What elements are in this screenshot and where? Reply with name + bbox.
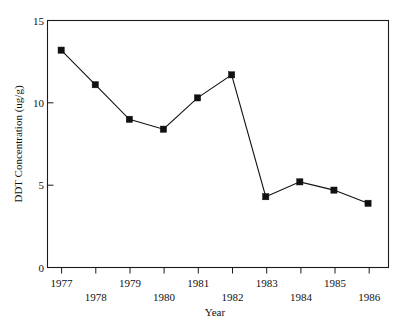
x-tick-label-1977: 1977 (51, 277, 74, 289)
data-series-group (58, 47, 371, 206)
y-tick-label-0: 0 (39, 262, 45, 274)
x-axis-tick-labels-bottom: 1978 1980 1982 1984 1986 (85, 291, 381, 303)
y-tick-label-15: 15 (33, 15, 45, 27)
y-axis-tick-labels: 15 10 5 0 (33, 15, 45, 274)
data-point-1979 (126, 116, 132, 122)
plot-frame (48, 21, 389, 268)
data-point-1983 (263, 194, 269, 200)
data-point-1981 (194, 95, 200, 101)
ddt-concentration-line-chart: 15 10 5 0 1977 1979 1981 1983 1985 (0, 0, 405, 326)
x-tick-label-1984: 1984 (290, 291, 313, 303)
x-axis-tick-labels-top: 1977 1979 1981 1983 1985 (51, 277, 347, 289)
x-axis-ticks (62, 268, 370, 274)
series-markers (58, 47, 371, 206)
data-point-1977 (58, 47, 64, 53)
x-tick-label-1981: 1981 (187, 277, 209, 289)
data-point-1986 (365, 200, 371, 206)
chart-canvas: 15 10 5 0 1977 1979 1981 1983 1985 (0, 0, 405, 326)
y-axis-ticks (48, 21, 54, 268)
x-tick-label-1980: 1980 (153, 291, 176, 303)
x-tick-label-1986: 1986 (358, 291, 381, 303)
y-tick-label-5: 5 (39, 179, 45, 191)
y-tick-label-10: 10 (33, 97, 45, 109)
x-tick-label-1985: 1985 (324, 277, 347, 289)
data-point-1978 (92, 82, 98, 88)
data-point-1980 (160, 126, 166, 132)
x-tick-label-1983: 1983 (256, 277, 279, 289)
y-axis-title: DDT Concentration (ug/g) (12, 85, 25, 202)
data-point-1985 (331, 187, 337, 193)
x-tick-label-1979: 1979 (119, 277, 142, 289)
x-axis-title: Year (205, 306, 226, 318)
data-point-1982 (229, 72, 235, 78)
data-point-1984 (297, 179, 303, 185)
series-line-ddt-concentration (61, 50, 368, 203)
x-tick-label-1978: 1978 (85, 291, 108, 303)
x-tick-label-1982: 1982 (222, 291, 244, 303)
